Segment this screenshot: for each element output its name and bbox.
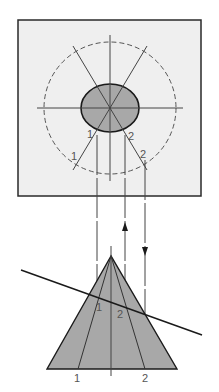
label-cut-1: 1 xyxy=(96,301,102,313)
label-base-1: 1 xyxy=(74,372,80,384)
cone-body xyxy=(47,256,177,369)
label-inner-2: 2 xyxy=(128,130,134,142)
label-cut-2: 2 xyxy=(117,308,123,320)
label-inner-1: 1 xyxy=(87,128,93,140)
arrow-down-icon xyxy=(142,247,148,256)
label-base-2: 2 xyxy=(142,372,148,384)
label-outer-1: 1 xyxy=(71,150,77,162)
label-outer-2: 2 xyxy=(140,148,146,160)
side-view: 1 2 1 2 xyxy=(21,246,202,384)
cone-section-diagram: 1 2 1 2 1 2 1 2 xyxy=(0,0,219,392)
arrow-up-icon xyxy=(122,222,128,231)
top-view: 1 2 1 2 xyxy=(18,20,201,196)
